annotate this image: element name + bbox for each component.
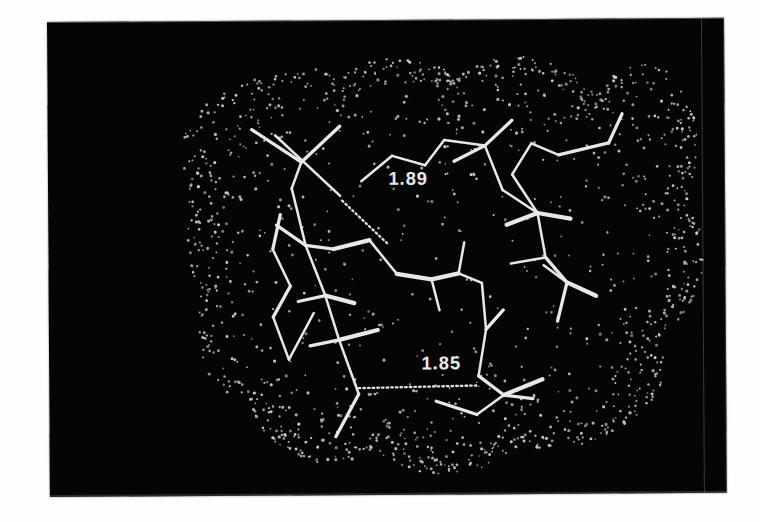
bond-stick xyxy=(511,257,546,263)
bond-stick xyxy=(289,313,314,360)
bond-stick xyxy=(334,240,370,249)
bond-stick xyxy=(252,129,302,162)
bond-stick xyxy=(432,273,459,279)
bond-stick xyxy=(567,282,596,296)
bond-stick xyxy=(557,282,567,321)
bond-stick xyxy=(504,395,533,399)
bond-stick xyxy=(275,135,340,196)
molecule-viewport[interactable]: 1.891.85 xyxy=(47,18,727,497)
bond-stick xyxy=(504,379,543,395)
bond-stick xyxy=(507,213,538,225)
bond-stick xyxy=(301,126,340,162)
bond-stick xyxy=(369,240,396,274)
bond-stick xyxy=(482,283,486,329)
bond-stick xyxy=(339,340,359,394)
bond-stick xyxy=(538,213,546,258)
bond-stick xyxy=(609,114,623,143)
molecule-viewport-frame: 1.891.85 xyxy=(47,18,727,497)
molecular-scene[interactable]: 1.891.85 xyxy=(47,18,727,497)
bond-stick xyxy=(477,395,504,415)
bond-stick xyxy=(273,215,281,250)
bond-sticks xyxy=(252,114,624,437)
vdw-surface-dots xyxy=(182,55,705,476)
bond-stick xyxy=(432,279,440,310)
bond-stick xyxy=(531,143,558,155)
bond-stick xyxy=(325,295,354,303)
bond-stick xyxy=(512,174,537,213)
bond-stick xyxy=(292,162,302,188)
bond-stick xyxy=(538,213,571,219)
bond-stick xyxy=(486,310,504,329)
bond-stick xyxy=(503,190,538,213)
bond-stick xyxy=(339,330,378,340)
bond-stick xyxy=(444,140,485,146)
bond-stick xyxy=(478,329,486,375)
bond-stick xyxy=(425,140,444,165)
hydrogen-bond xyxy=(342,200,389,245)
bond-stick xyxy=(273,249,291,286)
bond-stick xyxy=(479,376,504,395)
screenshot-root: 1.891.85 xyxy=(0,0,760,522)
molecule-svg: 1.891.85 xyxy=(47,18,727,497)
bond-stick xyxy=(325,295,339,340)
bond-stick xyxy=(558,143,608,155)
distance-label-hbond-1: 1.89 xyxy=(388,168,428,189)
bond-stick xyxy=(306,245,326,295)
hydrogen-bond xyxy=(359,386,477,389)
bond-stick xyxy=(306,245,334,249)
distance-labels: 1.891.85 xyxy=(388,167,461,373)
bond-stick xyxy=(459,273,482,283)
distance-label-hbond-2: 1.85 xyxy=(421,352,461,373)
bond-stick xyxy=(397,274,432,280)
bond-stick xyxy=(273,317,289,360)
bond-stick xyxy=(454,146,485,162)
bond-stick xyxy=(273,286,291,317)
bond-stick xyxy=(458,242,464,273)
bond-stick xyxy=(485,120,512,145)
bond-stick xyxy=(298,296,325,302)
bond-stick xyxy=(392,156,425,166)
bond-stick xyxy=(485,145,503,190)
bond-stick xyxy=(512,143,532,174)
